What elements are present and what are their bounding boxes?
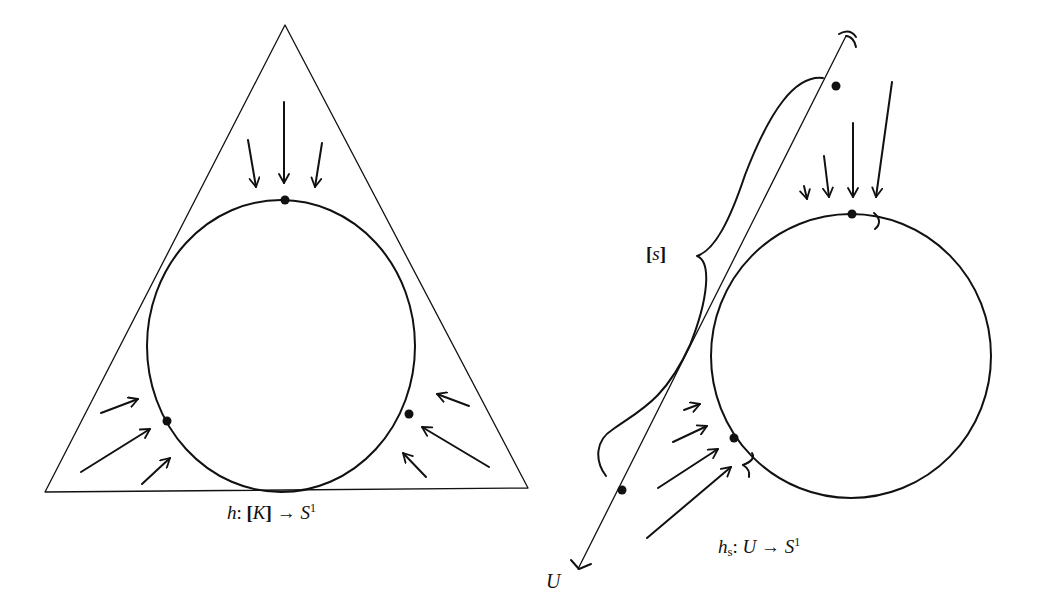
arrow-up-right-icon (673, 426, 707, 442)
left-panel (45, 25, 528, 492)
triangle (45, 25, 528, 492)
line-point-top (832, 82, 841, 91)
maps-to-arrow: → (761, 536, 780, 557)
line-start-arrow-icon (571, 560, 591, 569)
codomain-superscript: 1 (310, 501, 316, 515)
inscribed-circle (147, 200, 415, 492)
arrow-up-right-icon (658, 449, 718, 488)
colon: : (733, 536, 738, 557)
codomain: S (300, 502, 310, 523)
point-top (281, 196, 290, 205)
top-arrows (248, 102, 322, 187)
func-name: h (227, 502, 237, 523)
arrow-down-icon (824, 156, 829, 197)
arrow-down-icon (804, 186, 807, 199)
circle-point-top (848, 210, 857, 219)
codomain: S (785, 536, 795, 557)
point-left (163, 417, 172, 426)
diagram-canvas (0, 0, 1037, 599)
left-caption: h: [K] → S1 (227, 501, 316, 524)
arrow-up-left-icon (422, 427, 489, 467)
arrow-down-icon (248, 140, 256, 187)
codomain-superscript: 1 (794, 535, 800, 549)
right-top-arrows (804, 82, 892, 199)
lower-right-arrows (403, 394, 489, 477)
circle-point-left (730, 434, 739, 443)
maps-to-arrow: → (277, 502, 296, 523)
line-point-bottom (618, 486, 627, 495)
func-name: h (718, 536, 728, 557)
arrow-up-right-icon (647, 467, 731, 538)
colon: : (237, 502, 242, 523)
brace (598, 78, 823, 476)
arrow-up-right-icon (142, 458, 170, 484)
right-caption: hs: U → S1 (718, 535, 800, 560)
line-label-U: U (546, 570, 560, 593)
lower-left-arrows (81, 399, 170, 484)
arrow-down-icon (876, 82, 892, 197)
arrow-up-right-icon (81, 429, 150, 472)
line-end-arrow-icon (846, 36, 856, 47)
right-lower-left-arrows (647, 404, 731, 538)
arrow-up-right-icon (684, 404, 700, 410)
arrow-down-icon (315, 143, 322, 187)
brace-label: [s] (646, 243, 666, 265)
arrow-up-left-icon (403, 453, 426, 477)
arrow-up-left-icon (437, 394, 469, 406)
circle-hook-left-icon (743, 465, 749, 477)
bracket-close: ] (660, 243, 666, 264)
bracket-close: ] (266, 502, 272, 523)
domain: U (743, 536, 757, 557)
point-right (405, 410, 414, 419)
brace-var: s (652, 243, 659, 264)
right-panel (571, 32, 991, 569)
arrow-up-right-icon (101, 399, 138, 413)
domain: K (253, 502, 266, 523)
